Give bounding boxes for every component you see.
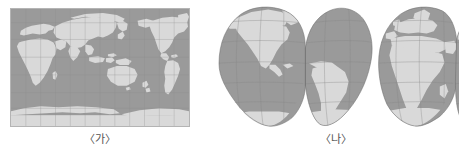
- figure-goode-homolosine: [213, 6, 459, 129]
- caption-figure-ga: 〈가〉: [10, 130, 190, 146]
- lobe-americas: [213, 6, 376, 129]
- figure-mercator-map: [10, 8, 190, 127]
- goode-homolosine-svg: [213, 6, 459, 129]
- mercator-map-frame: [10, 8, 190, 127]
- lobe-europe-africa: [373, 6, 459, 127]
- figure-panel: 〈가〉: [0, 0, 465, 160]
- caption-figure-na: 〈나〉: [213, 130, 459, 146]
- mercator-map-svg: [11, 9, 189, 126]
